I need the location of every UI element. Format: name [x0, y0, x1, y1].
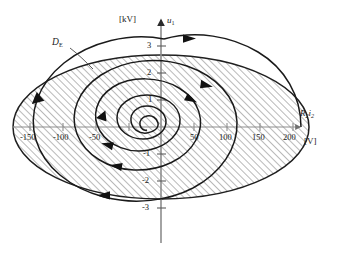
y-tick-label-1: 1 — [148, 95, 152, 104]
region-label-DE: DE — [52, 38, 63, 48]
x-axis-variable-subscript: 2 — [306, 112, 309, 119]
x-tick-label-100: 100 — [219, 133, 232, 142]
x-tick-label-50: 50 — [190, 133, 199, 142]
y-tick-label--1: -1 — [143, 149, 150, 158]
region-label-symbol: D — [52, 37, 59, 47]
x-tick-label--100: -100 — [53, 133, 69, 142]
x-axis-unit-label: [V] — [304, 137, 317, 146]
y-tick-label-2: 2 — [147, 68, 151, 77]
y-axis-variable-subscript: 1 — [172, 19, 175, 26]
x-tick-label--150: -150 — [20, 133, 36, 142]
x-axis-variable2-subscript: 2 — [311, 112, 314, 119]
y-tick-label-3: 3 — [147, 41, 151, 50]
x-tick-label-150: 150 — [252, 133, 265, 142]
y-tick-label--3: -3 — [142, 203, 149, 212]
x-tick-label--50: -50 — [89, 133, 100, 142]
y-axis-unit-label: [kV] — [119, 15, 136, 24]
y-axis-variable-label: u1 — [167, 16, 175, 25]
y-tick-label--2: -2 — [142, 176, 149, 185]
arrowhead-top-outer — [183, 35, 196, 43]
x-axis-variable-symbol: R — [300, 108, 306, 118]
x-tick-label-200: 200 — [283, 133, 296, 142]
phase-plane-figure: [kV] u1 R2i2 [V] DE -150 -100 -50 50 100… — [0, 0, 349, 254]
x-axis-variable-label: R2i2 — [300, 109, 314, 118]
y-axis-variable-symbol: u — [167, 15, 172, 25]
region-label-subscript: E — [59, 41, 63, 48]
